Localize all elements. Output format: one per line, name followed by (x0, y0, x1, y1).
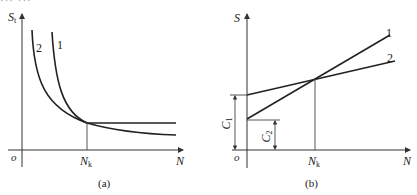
line-label-2-b: 2 (387, 52, 393, 64)
curve-label-2-a: 2 (36, 42, 42, 54)
line-1-b (247, 35, 390, 119)
curve-label-1-a: 1 (57, 39, 63, 51)
panel-a (8, 14, 183, 167)
nk-label-b: Nk (308, 155, 320, 169)
caption-b: (b) (305, 177, 318, 189)
curve-1-a (52, 32, 176, 123)
x-axis-label-a: N (176, 155, 184, 167)
y-axis-label-a: St (8, 11, 16, 25)
origin-label-b: o (234, 152, 240, 163)
nk-label-a: Nk (80, 155, 92, 169)
line-label-1-b: 1 (386, 27, 392, 39)
diagram-canvas (0, 0, 417, 195)
caption-a: (a) (98, 177, 110, 189)
x-axis-label-b: N (403, 155, 411, 167)
y-axis-label-b: S (234, 12, 240, 24)
origin-label-a: o (11, 152, 17, 163)
line-2-b (247, 61, 395, 95)
panel-b (230, 14, 410, 168)
c1-label: C1 (219, 117, 234, 129)
c2-label: C2 (259, 130, 274, 142)
